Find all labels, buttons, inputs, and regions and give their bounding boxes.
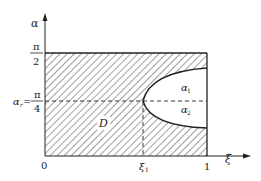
region-diagram: α ξ 0 π 2 α r = π 4 ξ 1 1 D α 1 α 2	[0, 0, 261, 181]
y-tick-pi2-num: π	[33, 41, 40, 52]
x-axis-label: ξ	[225, 153, 232, 166]
region-alpha1-sub: 1	[187, 87, 191, 94]
y-tick-alpha-r-prefix: α	[13, 96, 20, 107]
y-tick-pi4-num: π	[34, 89, 41, 100]
x-tick-xi1-sub: 1	[145, 166, 149, 173]
region-d-label: D	[98, 117, 108, 130]
x-axis-arrow-icon	[243, 154, 251, 159]
y-axis-arrow-icon	[43, 13, 48, 21]
y-axis-label: α	[31, 17, 39, 30]
y-tick-pi2-den: 2	[33, 56, 39, 67]
region-alpha2-sub: 2	[187, 109, 191, 116]
y-tick-alpha-r-eq: =	[23, 96, 31, 107]
origin-label: 0	[41, 160, 47, 171]
x-tick-one: 1	[204, 161, 210, 172]
y-tick-pi4-den: 4	[34, 103, 40, 114]
